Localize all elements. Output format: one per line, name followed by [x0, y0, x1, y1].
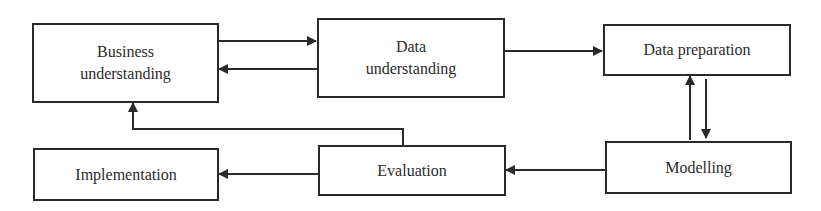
node-label: Evaluation: [377, 160, 446, 182]
node-label: Modelling: [665, 157, 732, 179]
node-business-understanding: Business understanding: [32, 23, 219, 103]
node-label: understanding: [80, 63, 171, 85]
node-label: Data: [366, 36, 457, 58]
crisp-dm-diagram: Business understanding Data understandin…: [0, 0, 821, 211]
node-data-preparation: Data preparation: [603, 24, 791, 76]
node-modelling: Modelling: [605, 141, 792, 194]
node-label: Data preparation: [643, 39, 750, 61]
node-evaluation: Evaluation: [318, 145, 506, 196]
node-label: Implementation: [75, 164, 176, 186]
node-label: understanding: [366, 58, 457, 80]
node-label: Business: [80, 41, 171, 63]
arrow-evaluation-to-business: [133, 103, 403, 145]
node-implementation: Implementation: [33, 148, 219, 201]
node-data-understanding: Data understanding: [317, 18, 505, 98]
